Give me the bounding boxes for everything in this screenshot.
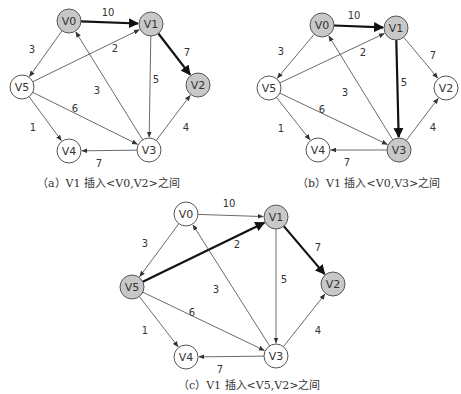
edge-v5-v3 xyxy=(280,93,387,144)
node-label: V4 xyxy=(311,144,326,157)
node-v5: V5 xyxy=(257,76,281,100)
edge-weight-label: 7 xyxy=(344,157,350,168)
edge-weight-label: 2 xyxy=(112,43,118,54)
node-v4: V4 xyxy=(174,345,198,369)
edge-v0-v1 xyxy=(198,214,263,216)
node-v1: V1 xyxy=(384,16,408,40)
edge-v5-v3 xyxy=(33,92,138,144)
edge-weight-label: 5 xyxy=(281,274,287,285)
edge-weight-label: 3 xyxy=(29,44,35,55)
edge-v3-v4 xyxy=(199,356,264,357)
node-v2: V2 xyxy=(434,76,458,100)
edge-weight-label: 5 xyxy=(401,77,407,88)
diagram-b: 10327536147V0V1V2V3V4V5 xyxy=(257,10,458,168)
node-v0: V0 xyxy=(57,9,81,33)
node-v3: V3 xyxy=(137,138,161,162)
edge-weight-label: 6 xyxy=(189,307,195,318)
edge-weight-label: 7 xyxy=(315,242,321,253)
node-v5: V5 xyxy=(120,275,144,299)
edge-weight-label: 2 xyxy=(360,47,366,58)
edge-weight-label: 4 xyxy=(183,122,189,133)
edge-weight-label: 10 xyxy=(348,10,361,21)
node-label: V4 xyxy=(62,145,77,158)
node-label: V3 xyxy=(142,144,157,157)
node-label: V5 xyxy=(125,281,140,294)
edge-weight-label: 3 xyxy=(342,87,348,98)
edge-weight-label: 10 xyxy=(102,7,115,18)
edge-v5-v3 xyxy=(143,292,264,350)
edge-v3-v0 xyxy=(76,32,143,140)
edge-v3-v0 xyxy=(193,225,270,346)
node-v4: V4 xyxy=(57,139,81,163)
node-label: V1 xyxy=(144,18,159,31)
node-v1: V1 xyxy=(139,12,163,36)
edge-v1-v3 xyxy=(149,36,151,137)
edge-v3-v2 xyxy=(406,98,438,140)
node-v1: V1 xyxy=(264,205,288,229)
node-v3: V3 xyxy=(387,138,411,162)
edge-weight-label: 3 xyxy=(278,46,284,57)
node-label: V3 xyxy=(392,144,407,157)
edge-weight-label: 10 xyxy=(223,198,236,209)
node-v4: V4 xyxy=(306,138,330,162)
diagram-c: 10327536147V0V1V2V3V4V5 xyxy=(120,198,345,375)
node-v0: V0 xyxy=(174,202,198,226)
edge-v0-v1 xyxy=(81,21,138,23)
edge-v5-v1 xyxy=(143,223,265,282)
node-label: V1 xyxy=(269,211,284,224)
edge-weight-label: 2 xyxy=(234,239,240,250)
edge-weight-label: 1 xyxy=(30,122,36,133)
edge-v0-v1 xyxy=(334,25,383,27)
node-label: V0 xyxy=(315,19,330,32)
node-label: V5 xyxy=(262,82,277,95)
edge-weight-label: 3 xyxy=(94,85,100,96)
diagram-canvas: 10327536147V0V1V2V3V4V5 10327536147V0V1V… xyxy=(0,0,461,394)
edge-weight-label: 3 xyxy=(142,238,148,249)
edge-weight-label: 6 xyxy=(72,103,78,114)
edge-weight-label: 4 xyxy=(430,122,436,133)
edge-weight-label: 7 xyxy=(96,158,102,169)
edge-v5-v4 xyxy=(29,97,61,141)
edge-v3-v4 xyxy=(82,150,137,151)
node-label: V2 xyxy=(191,79,206,92)
edge-v3-v2 xyxy=(156,95,190,140)
edge-weight-label: 7 xyxy=(184,47,190,58)
edge-weight-label: 7 xyxy=(430,50,436,61)
edge-v1-v3 xyxy=(396,40,398,137)
edge-v5-v4 xyxy=(139,297,178,347)
edge-weight-label: 1 xyxy=(142,325,148,336)
node-label: V1 xyxy=(389,22,404,35)
edge-weight-label: 1 xyxy=(278,123,284,134)
node-label: V2 xyxy=(439,82,454,95)
node-label: V5 xyxy=(15,81,30,94)
edge-weight-label: 4 xyxy=(315,325,321,336)
node-v0: V0 xyxy=(310,13,334,37)
node-v2: V2 xyxy=(321,272,345,296)
caption-b: （b）V1 插入<V0,V3>之间 xyxy=(297,174,440,190)
caption-c: （c）V1 插入<V5,V2>之间 xyxy=(178,376,320,392)
node-label: V3 xyxy=(269,350,284,363)
node-label: V0 xyxy=(62,15,77,28)
edge-weight-label: 7 xyxy=(217,364,223,375)
node-label: V2 xyxy=(326,278,341,291)
edge-v3-v2 xyxy=(283,294,324,346)
edge-v5-v1 xyxy=(33,30,140,82)
edge-weight-label: 3 xyxy=(213,284,219,295)
edge-weight-label: 6 xyxy=(319,104,325,115)
node-label: V0 xyxy=(179,208,194,221)
node-v5: V5 xyxy=(10,75,34,99)
edge-v0-v5 xyxy=(140,224,179,277)
node-v3: V3 xyxy=(264,344,288,368)
node-v2: V2 xyxy=(186,73,210,97)
node-label: V4 xyxy=(179,351,194,364)
edge-weight-label: 5 xyxy=(153,74,159,85)
diagram-a: 10327536147V0V1V2V3V4V5 xyxy=(10,7,210,169)
caption-a: （a）V1 插入<V0,V2>之间 xyxy=(37,174,180,190)
